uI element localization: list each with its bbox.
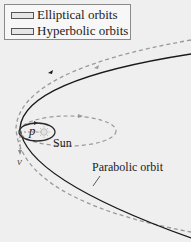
legend: Elliptical orbits Hyperbolic orbits: [4, 4, 131, 40]
sun-label: Sun: [53, 136, 72, 151]
perihelion-label: p: [29, 123, 36, 139]
legend-swatch-hyperbolic: [11, 28, 34, 35]
ellipse-large-direction-arrow-icon: [78, 114, 83, 118]
velocity-label: v: [17, 155, 22, 167]
legend-item-elliptical: Elliptical orbits: [11, 8, 118, 22]
parabolic-label-leader: [93, 176, 100, 186]
hyperbolic-direction-arrow-icon: [94, 65, 99, 69]
parabolic-orbit: [20, 54, 191, 238]
legend-label-elliptical: Elliptical orbits: [37, 8, 118, 22]
parabolic-orbit-label: Parabolic orbit: [92, 160, 163, 175]
legend-label-hyperbolic: Hyperbolic orbits: [37, 24, 128, 38]
hyperbolic-orbit: [16, 40, 191, 232]
sun-icon: [38, 126, 50, 138]
legend-item-hyperbolic: Hyperbolic orbits: [11, 24, 128, 38]
parabolic-direction-arrow-icon: [48, 70, 53, 74]
legend-swatch-elliptical: [11, 12, 34, 19]
